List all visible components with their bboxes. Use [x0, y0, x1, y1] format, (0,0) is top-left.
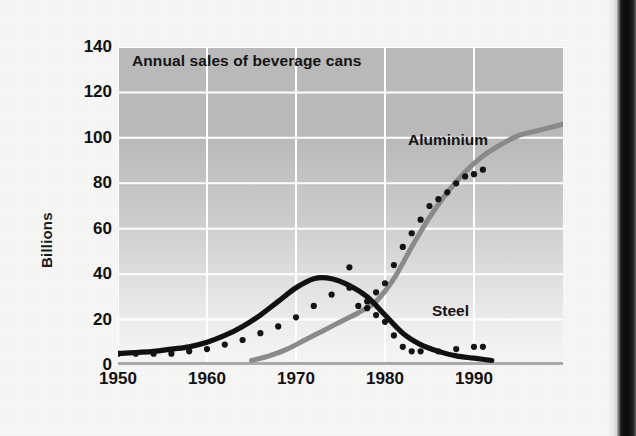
data-point — [400, 344, 406, 350]
x-tick-1990: 1990 — [439, 370, 509, 387]
y-tick-20: 20 — [56, 311, 112, 328]
series-label-steel: Steel — [432, 302, 469, 320]
data-point — [311, 303, 317, 309]
data-point — [373, 312, 379, 318]
data-point — [471, 171, 477, 177]
data-point — [435, 348, 441, 354]
data-point — [293, 314, 299, 320]
series-label-aluminium: Aluminium — [408, 131, 488, 149]
data-point — [462, 173, 468, 179]
data-point — [133, 351, 139, 357]
y-tick-40: 40 — [56, 265, 112, 282]
y-tick-100: 100 — [56, 129, 112, 146]
data-point — [382, 319, 388, 325]
data-point — [453, 346, 459, 352]
data-point — [151, 351, 157, 357]
x-tick-1970: 1970 — [261, 370, 331, 387]
data-point — [364, 305, 370, 311]
data-point — [204, 346, 210, 352]
data-point — [346, 285, 352, 291]
y-tick-120: 120 — [56, 83, 112, 100]
data-point — [418, 348, 424, 354]
data-point — [480, 344, 486, 350]
data-point — [168, 351, 174, 357]
data-point — [275, 323, 281, 329]
plot-svg — [118, 47, 563, 365]
series-line-aluminium — [252, 124, 564, 360]
series-layer — [118, 124, 563, 360]
data-point — [373, 289, 379, 295]
y-tick-60: 60 — [56, 220, 112, 237]
data-point — [400, 244, 406, 250]
y-tick-140: 140 — [56, 38, 112, 55]
datapoints-steel-data-points — [118, 285, 486, 357]
data-point — [418, 217, 424, 223]
data-point — [240, 337, 246, 343]
book-spine-edge — [608, 0, 636, 436]
data-point — [453, 180, 459, 186]
y-tick-80: 80 — [56, 174, 112, 191]
data-point — [391, 332, 397, 338]
data-point — [346, 264, 352, 270]
data-point — [329, 291, 335, 297]
chart-title: Annual sales of beverage cans — [132, 52, 361, 70]
chart-figure: Billions 020406080100120140 Annual sales… — [0, 0, 600, 436]
data-point — [382, 280, 388, 286]
data-point — [471, 344, 477, 350]
x-tick-1960: 1960 — [172, 370, 242, 387]
x-axis-tick-labels: 19501960197019801990 — [0, 370, 600, 400]
data-point — [391, 262, 397, 268]
x-tick-1950: 1950 — [83, 370, 153, 387]
data-point — [257, 330, 263, 336]
data-point — [222, 341, 228, 347]
x-tick-1980: 1980 — [350, 370, 420, 387]
data-point — [444, 189, 450, 195]
data-point — [364, 298, 370, 304]
data-point — [186, 348, 192, 354]
data-point — [409, 348, 415, 354]
plot-area — [118, 47, 563, 365]
data-point — [480, 167, 486, 173]
data-point — [355, 303, 361, 309]
data-point — [409, 230, 415, 236]
data-point — [435, 196, 441, 202]
gridlines — [118, 47, 563, 365]
data-point — [426, 203, 432, 209]
